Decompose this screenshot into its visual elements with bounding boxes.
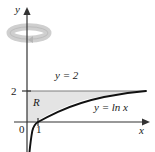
revolution-arrow-icon [10,27,48,43]
line-label-y-equals-2: y = 2 [55,70,78,81]
x-axis-label: x [139,125,144,136]
figure-canvas: y x 0 1 2 R y = 2 y = ln x [0,0,155,152]
origin-label: 0 [19,124,25,135]
y-tick-label-2: 2 [11,86,17,97]
y-axis-label: y [15,4,20,15]
x-tick-label-1: 1 [36,124,42,135]
curve-label-y-equals-ln-x: y = ln x [94,102,128,113]
region-label-R: R [33,97,40,108]
